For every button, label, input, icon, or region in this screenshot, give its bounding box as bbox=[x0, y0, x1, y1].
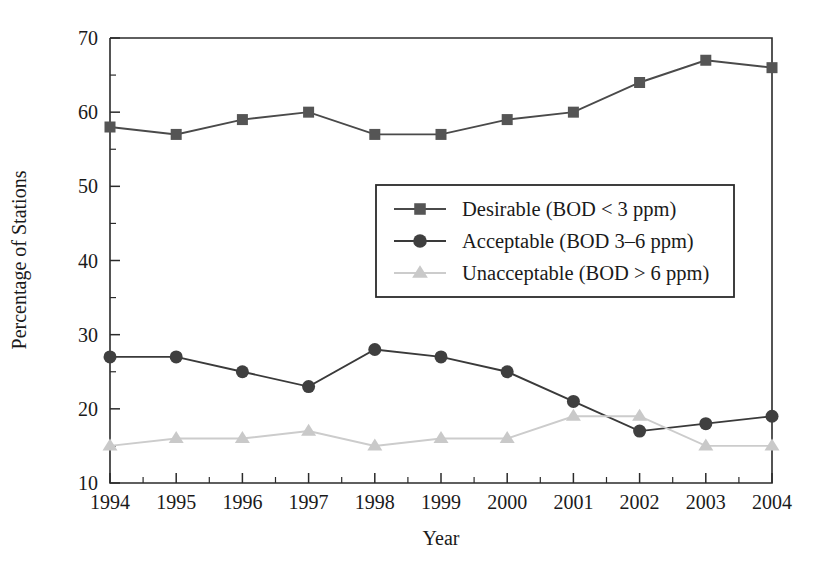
marker-circle bbox=[236, 365, 249, 378]
marker-square bbox=[568, 107, 579, 118]
x-tick-label: 1999 bbox=[421, 491, 461, 513]
chart-container: 10203040506070 1994199519961997199819992… bbox=[0, 0, 815, 574]
chart-legend: Desirable (BOD < 3 ppm)Acceptable (BOD 3… bbox=[376, 185, 734, 297]
legend-label: Acceptable (BOD 3–6 ppm) bbox=[462, 230, 694, 253]
x-tick-label: 1995 bbox=[156, 491, 196, 513]
x-axis-title: Year bbox=[423, 527, 460, 549]
legend-label: Desirable (BOD < 3 ppm) bbox=[462, 198, 676, 221]
y-tick-label: 20 bbox=[78, 398, 98, 420]
marker-square bbox=[700, 55, 711, 66]
marker-square bbox=[502, 114, 513, 125]
marker-square bbox=[171, 129, 182, 140]
marker-triangle bbox=[301, 424, 316, 436]
marker-circle bbox=[302, 380, 315, 393]
y-tick-label: 30 bbox=[78, 324, 98, 346]
x-tick-label: 1998 bbox=[355, 491, 395, 513]
x-tick-label: 2004 bbox=[752, 491, 792, 513]
marker-square bbox=[369, 129, 380, 140]
y-axis-title: Percentage of Stations bbox=[8, 170, 31, 349]
y-tick-label: 50 bbox=[78, 175, 98, 197]
x-tick-label: 2000 bbox=[487, 491, 527, 513]
marker-circle bbox=[170, 350, 183, 363]
marker-circle bbox=[501, 365, 514, 378]
line-chart: 10203040506070 1994199519961997199819992… bbox=[0, 0, 815, 574]
marker-square bbox=[237, 114, 248, 125]
y-tick-label: 70 bbox=[78, 27, 98, 49]
x-tick-label: 1997 bbox=[289, 491, 329, 513]
marker-circle bbox=[413, 234, 427, 248]
series-2 bbox=[104, 343, 779, 438]
marker-circle bbox=[567, 395, 580, 408]
y-tick-label: 40 bbox=[78, 250, 98, 272]
marker-circle bbox=[104, 350, 117, 363]
marker-circle bbox=[368, 343, 381, 356]
marker-square bbox=[303, 107, 314, 118]
marker-triangle bbox=[632, 409, 647, 421]
marker-square bbox=[634, 77, 645, 88]
x-tick-label: 2002 bbox=[620, 491, 660, 513]
marker-triangle bbox=[566, 409, 581, 421]
marker-circle bbox=[435, 350, 448, 363]
marker-triangle bbox=[434, 431, 449, 443]
x-tick-label: 1996 bbox=[222, 491, 262, 513]
x-axis-ticks bbox=[110, 473, 772, 483]
marker-triangle bbox=[169, 431, 184, 443]
x-tick-label: 2003 bbox=[686, 491, 726, 513]
marker-square bbox=[767, 62, 778, 73]
marker-square bbox=[105, 122, 116, 133]
y-axis-ticks bbox=[110, 38, 120, 483]
y-tick-label: 60 bbox=[78, 101, 98, 123]
series-3 bbox=[103, 409, 780, 451]
x-tick-label: 2001 bbox=[553, 491, 593, 513]
y-axis-tick-labels: 10203040506070 bbox=[78, 27, 98, 494]
x-axis-tick-labels: 1994199519961997199819992000200120022003… bbox=[90, 491, 792, 513]
series-1 bbox=[105, 55, 778, 140]
marker-circle bbox=[699, 417, 712, 430]
marker-triangle bbox=[765, 438, 780, 450]
legend-label: Unacceptable (BOD > 6 ppm) bbox=[462, 262, 709, 285]
marker-circle bbox=[766, 410, 779, 423]
x-tick-label: 1994 bbox=[90, 491, 130, 513]
marker-circle bbox=[633, 425, 646, 438]
marker-square bbox=[414, 203, 426, 215]
series-line bbox=[110, 60, 772, 134]
marker-square bbox=[436, 129, 447, 140]
